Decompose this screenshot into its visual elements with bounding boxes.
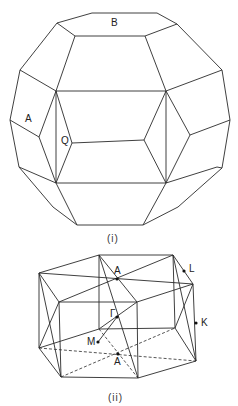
point-k — [194, 321, 197, 324]
point-m — [96, 340, 99, 343]
label-a-bottom: A — [114, 357, 121, 367]
figure-i-truncated-octahedron — [10, 13, 230, 225]
label-k: K — [201, 318, 208, 328]
label-q: Q — [61, 136, 69, 146]
caption-i: (i) — [107, 233, 119, 244]
caption-ii: (ii) — [108, 392, 123, 403]
point-a-top — [115, 277, 118, 280]
label-a: A — [25, 114, 32, 124]
label-gamma: Γ — [110, 309, 116, 319]
point-l — [182, 269, 185, 272]
label-b: B — [111, 18, 118, 28]
label-m: M — [87, 337, 95, 347]
label-a-top: A — [114, 266, 121, 276]
label-l: L — [189, 264, 195, 274]
brillouin-zone-diagrams — [0, 0, 238, 406]
